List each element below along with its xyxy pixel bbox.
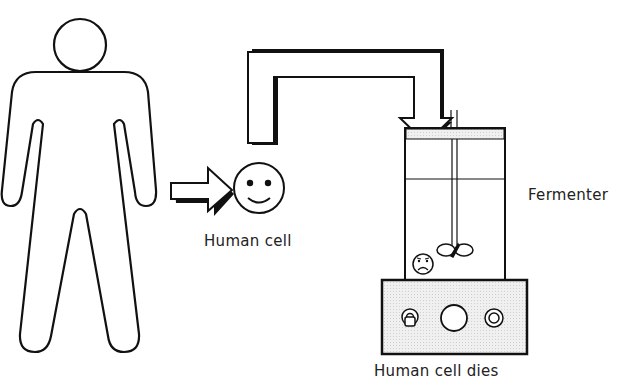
right-arrow-icon — [171, 168, 234, 216]
human-figure — [2, 19, 156, 352]
happy-cell-icon — [234, 163, 284, 213]
fermenter — [382, 110, 527, 354]
dial-icon — [441, 305, 467, 331]
fermenter-lid — [406, 129, 504, 139]
indicator-knob-icon — [485, 309, 503, 327]
toggle-switch-icon — [402, 309, 418, 326]
label-fermenter: Fermenter — [528, 186, 608, 204]
label-human-cell-dies: Human cell dies — [374, 362, 499, 380]
human-body-outline — [2, 72, 156, 352]
human-head — [54, 19, 106, 71]
label-human-cell: Human cell — [204, 232, 292, 250]
sad-cell-icon — [413, 254, 433, 274]
